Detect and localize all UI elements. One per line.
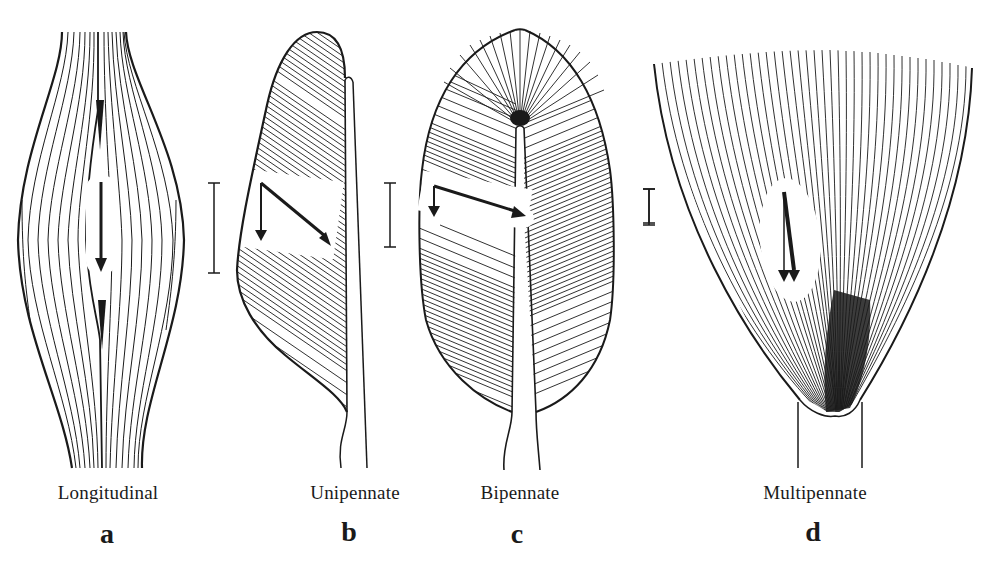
scale-bar-d	[641, 188, 657, 224]
caption-longitudinal: Longitudinal	[58, 482, 159, 504]
bipennate-muscle-drawing	[400, 0, 650, 470]
unipennate-muscle-drawing	[225, 0, 385, 470]
force-arrow-icon	[417, 171, 534, 229]
caption-unipennate: Unipennate	[310, 482, 400, 504]
figure-letter-d: d	[805, 516, 821, 548]
figure-letter-b: b	[341, 516, 357, 548]
figure-bipennate	[400, 0, 650, 470]
caption-bipennate: Bipennate	[481, 482, 560, 504]
figure-letter-c: c	[511, 518, 523, 550]
force-arrow-icon	[86, 175, 116, 275]
caption-multipennate: Multipennate	[763, 482, 867, 504]
longitudinal-muscle-drawing	[0, 0, 240, 470]
figure-letter-a: a	[100, 518, 114, 550]
figure-longitudinal	[0, 0, 240, 470]
scale-bar-a	[206, 182, 222, 274]
force-arrow-icon	[755, 176, 826, 305]
figure-multipennate	[650, 0, 992, 470]
figure-unipennate	[225, 0, 385, 470]
scale-bar-b	[382, 182, 398, 248]
multipennate-muscle-drawing	[650, 0, 992, 470]
